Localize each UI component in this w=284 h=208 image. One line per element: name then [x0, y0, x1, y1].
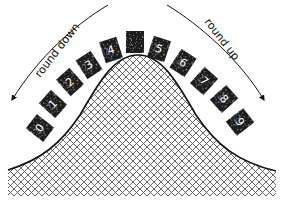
tile-0: 0 — [26, 114, 54, 142]
round-down-label: round down — [32, 21, 82, 80]
tile-9: 9 — [226, 108, 254, 136]
round-up-label: round up — [202, 16, 243, 63]
bell-curve-diagram: round down round up 0123456789 — [0, 0, 284, 208]
tile-6: 6 — [169, 49, 196, 77]
tile-8: 8 — [210, 85, 238, 113]
tile-background — [126, 31, 144, 53]
tile-7: 7 — [190, 67, 218, 95]
tile-blank — [126, 31, 144, 53]
tile-2: 2 — [56, 68, 84, 96]
tile-1: 1 — [39, 90, 67, 118]
tile-4: 4 — [99, 37, 123, 63]
tile-3: 3 — [75, 51, 102, 79]
